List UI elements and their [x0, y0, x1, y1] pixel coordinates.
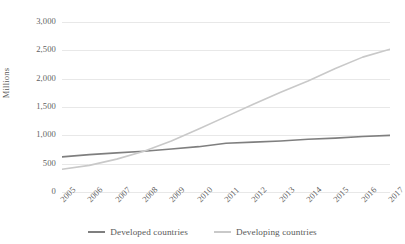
series-lines: [62, 22, 390, 192]
legend-item[interactable]: Developing countries: [214, 227, 317, 237]
y-axis-tick-label: 1,000: [0, 129, 56, 139]
y-axis-tick-label: 0: [0, 186, 56, 196]
plot-area: [62, 22, 390, 192]
y-axis-tick-label: 2,000: [0, 73, 56, 83]
legend-swatch-icon: [88, 231, 105, 233]
series-line: [62, 49, 390, 169]
legend-label: Developing countries: [236, 227, 317, 237]
legend-item[interactable]: Developed countries: [88, 227, 188, 237]
legend-swatch-icon: [214, 231, 231, 233]
y-axis-tick-label: 3,000: [0, 16, 56, 26]
y-axis-tick-label: 1,500: [0, 101, 56, 111]
chart-legend: Developed countriesDeveloping countries: [0, 227, 405, 237]
legend-label: Developed countries: [110, 227, 188, 237]
y-axis-tick-label: 2,500: [0, 44, 56, 54]
line-chart: Millions 05001,0001,5002,0002,5003,000 2…: [0, 0, 405, 244]
series-line: [62, 135, 390, 157]
y-axis-tick-label: 500: [0, 158, 56, 168]
